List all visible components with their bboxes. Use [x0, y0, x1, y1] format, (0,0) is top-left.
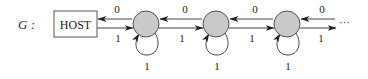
svg-text:0: 0 [319, 3, 325, 15]
node-3 [274, 11, 300, 37]
self-loop-node1: 1 [136, 33, 158, 72]
host-box: HOST [54, 11, 97, 37]
svg-text:0: 0 [252, 3, 258, 15]
edge-host-node1: 0 1 [97, 3, 133, 44]
self-loop-node3: 1 [277, 33, 299, 72]
svg-text:1: 1 [179, 32, 185, 44]
graph-diagram: G : HOST 0 1 0 1 0 1 0 1 1 1 [0, 0, 368, 79]
svg-text:1: 1 [285, 60, 291, 72]
edge-node1-node2: 0 1 [159, 3, 203, 44]
node-1 [133, 11, 159, 37]
svg-text:0: 0 [182, 3, 188, 15]
svg-text:0: 0 [114, 3, 120, 15]
edge-node2-node3: 0 1 [229, 3, 274, 44]
svg-text:1: 1 [115, 32, 121, 44]
svg-text:1: 1 [318, 32, 324, 44]
continuation-ellipsis: ··· [339, 16, 350, 28]
edge-node3-beyond: 0 1 [300, 3, 336, 44]
svg-text:1: 1 [144, 60, 150, 72]
graph-name-label: G : [18, 17, 35, 32]
self-loop-node2: 1 [206, 33, 228, 72]
host-label: HOST [60, 18, 92, 32]
node-2 [203, 11, 229, 37]
svg-text:1: 1 [249, 32, 255, 44]
svg-text:1: 1 [214, 60, 220, 72]
